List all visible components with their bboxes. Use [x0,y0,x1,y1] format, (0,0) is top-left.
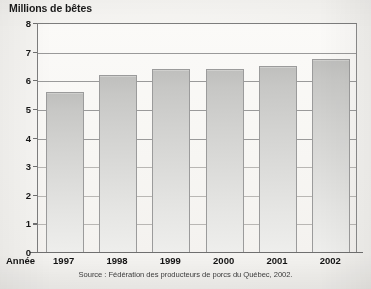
y-axis-tick-label: 8 [5,18,31,29]
y-axis-tick-label: 5 [5,103,31,114]
y-axis-tick-label: 1 [5,218,31,229]
y-axis-tick-label: 6 [5,75,31,86]
x-axis-tick-label: 2000 [213,255,234,266]
x-axis-tick-label: 1997 [53,255,74,266]
chart-figure: Millions de bêtes 012345678 199719981999… [0,0,371,289]
y-axis-tick-mark [33,166,37,167]
bar-2001 [259,66,297,252]
bar-1999 [152,69,190,252]
gridline [38,224,356,225]
y-axis-tick-mark [33,52,37,53]
y-axis-tick-mark [33,223,37,224]
x-axis-line [30,252,363,253]
chart-title: Millions de bêtes [9,2,92,14]
gridline [38,53,356,54]
gridline [38,196,356,197]
gridline [38,139,356,140]
y-axis-tick-label: 7 [5,46,31,57]
source-note: Source : Fédération des producteurs de p… [0,270,371,279]
plot-area [37,23,357,252]
y-axis-tick-mark [33,195,37,196]
x-axis-tick-label: 2002 [320,255,341,266]
y-axis-tick-mark [33,23,37,24]
gridline [38,167,356,168]
x-axis-tick-label: 1999 [160,255,181,266]
y-axis-tick-label: 4 [5,132,31,143]
bar-2002 [312,59,350,252]
gridline [38,81,356,82]
y-axis-tick-label: 3 [5,161,31,172]
bar-1997 [46,92,84,252]
bar-2000 [206,69,244,252]
x-axis-title: Année [6,255,35,266]
y-axis-tick-mark [33,109,37,110]
x-axis-tick-label: 2001 [266,255,287,266]
x-axis-tick-label: 1998 [106,255,127,266]
y-axis-tick-mark [33,80,37,81]
y-axis-tick-label: 2 [5,189,31,200]
y-axis-tick-mark [33,138,37,139]
bar-1998 [99,75,137,252]
gridline [38,110,356,111]
